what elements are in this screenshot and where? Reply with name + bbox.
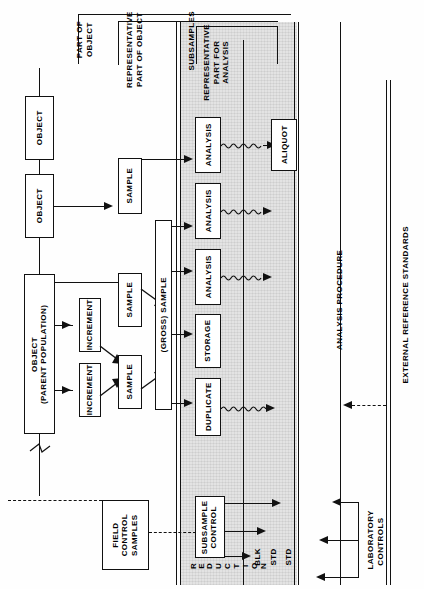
gross-sample-box[interactable]: (GROSS) SAMPLE xyxy=(155,220,172,410)
bracket-rep-part-object-vert xyxy=(118,21,119,65)
analysis-1-label: ANALYSIS xyxy=(203,124,212,167)
dash-field-to-subsample xyxy=(149,532,196,533)
analysis-procedure-label: ANALYSIS PROCEDURE xyxy=(335,235,345,365)
line-control-std-2 xyxy=(225,531,257,532)
arrow-external-reference xyxy=(343,401,352,409)
line-lab-control-1 xyxy=(341,502,359,503)
control-output-std-1: STD xyxy=(284,545,294,569)
external-reference-standards-label: EXTERNAL REFERENCE STANDARDS xyxy=(401,221,411,389)
squiggle-analysis2-out xyxy=(221,207,265,215)
analysis-1-box[interactable]: ANALYSIS xyxy=(195,117,221,173)
band-rail-left-inner xyxy=(180,22,181,585)
line-control-blk xyxy=(225,556,242,557)
storage-box[interactable]: STORAGE xyxy=(195,314,221,368)
spine-object-top-stub xyxy=(39,68,40,96)
object-top-label: OBJECT xyxy=(35,111,44,146)
diagram-canvas: PART OF OBJECT REPRESENTATIVE PART OF OB… xyxy=(0,0,424,589)
control-output-std-2: STD xyxy=(269,545,279,569)
line-parent-to-samplemid xyxy=(55,282,119,283)
arrow-analysis2-out xyxy=(263,207,272,215)
band-rail-right-inner xyxy=(294,22,295,585)
band-rail-left-outer xyxy=(176,22,177,585)
object-top-box[interactable]: OBJECT xyxy=(25,96,54,160)
spine-object-mid-to-parent xyxy=(39,238,40,274)
object-mid-box[interactable]: OBJECT xyxy=(25,174,54,238)
arrow-objectmid-to-sampletop xyxy=(104,202,113,210)
bracket-part-of-object-horz xyxy=(78,14,291,15)
spine-object-top-to-mid xyxy=(39,160,40,174)
arrow-lab-control-1 xyxy=(332,498,341,506)
line-sampletop-to-analysis1 xyxy=(142,159,184,160)
squiggle-analysis3-out xyxy=(221,273,265,281)
arrow-sampletop-to-analysis1 xyxy=(184,155,193,163)
external-ref-rail-a xyxy=(386,80,387,585)
arrow-analysis3-out xyxy=(263,273,272,281)
aliquot-box[interactable]: ALIQUOT xyxy=(271,119,297,171)
sample-low-box[interactable]: SAMPLE xyxy=(118,355,142,409)
duplicate-box[interactable]: DUPLICATE xyxy=(195,378,221,436)
laboratory-controls-label: LABORATORY CONTROLS xyxy=(366,514,385,570)
object-mid-label: OBJECT xyxy=(35,189,44,224)
object-parent-box[interactable]: OBJECT (PARENT POPULATION) xyxy=(24,274,55,434)
increment-2-label: INCREMENT xyxy=(85,364,94,415)
arrow-duplicate-out xyxy=(266,404,275,412)
increment-1-label: INCREMENT xyxy=(85,299,94,350)
arrow-parent-to-increment2 xyxy=(62,386,71,394)
arrow-gross-to-duplicate xyxy=(184,399,193,407)
object-parent-label: OBJECT (PARENT POPULATION) xyxy=(30,304,49,403)
subsample-control-label: SUBSAMPLE CONTROL xyxy=(201,500,220,554)
line-lab-control-2 xyxy=(328,540,359,541)
arrow-control-std-2 xyxy=(257,527,266,535)
external-ref-rail-b xyxy=(390,80,391,585)
spine-break-marker xyxy=(29,441,51,455)
sample-mid-label: SAMPLE xyxy=(125,282,134,318)
analysis-2-box[interactable]: ANALYSIS xyxy=(195,183,221,239)
bracket-label-rep-part-object: REPRESENTATIVE PART OF OBJECT xyxy=(125,5,144,95)
line-gross-to-duplicate xyxy=(172,403,184,404)
dash-to-field-control xyxy=(8,500,102,501)
bracket-rep-part-analysis-vert xyxy=(196,26,197,64)
sample-mid-box[interactable]: SAMPLE xyxy=(118,273,142,327)
gross-sample-label: (GROSS) SAMPLE xyxy=(159,277,168,352)
field-control-samples-box[interactable]: FIELD CONTROL SAMPLES xyxy=(102,500,149,570)
line-control-std-1 xyxy=(225,503,272,504)
analysis-2-label: ANALYSIS xyxy=(203,190,212,233)
line-gross-to-analysis3 xyxy=(172,271,184,272)
line-objectmid-to-sampletop xyxy=(54,206,104,207)
bracket-rep-part-analysis-vert2 xyxy=(277,26,278,64)
field-control-samples-label: FIELD CONTROL SAMPLES xyxy=(111,514,139,556)
arrow-gross-to-storage xyxy=(184,330,193,338)
line-gross-to-analysis2 xyxy=(172,226,184,227)
sample-top-label: SAMPLE xyxy=(125,168,134,204)
arrow-gross-to-analysis2 xyxy=(184,222,193,230)
bracket-label-part-of-object: PART OF OBJECT xyxy=(75,0,94,80)
squiggle-duplicate-out xyxy=(221,404,269,412)
increment-1-box[interactable]: INCREMENT xyxy=(79,298,101,352)
arrow-lab-control-3 xyxy=(316,573,325,581)
line-lab-control-3 xyxy=(325,577,359,578)
arrow-parent-to-increment1 xyxy=(62,321,71,329)
arrow-control-std-1 xyxy=(272,499,281,507)
sample-top-box[interactable]: SAMPLE xyxy=(118,158,142,214)
line-external-reference xyxy=(352,405,353,406)
arrow-gross-to-analysis3 xyxy=(184,267,193,275)
analysis-3-label: ANALYSIS xyxy=(203,256,212,299)
dash-external-reference xyxy=(352,405,386,406)
control-output-blk: BLK xyxy=(253,545,263,569)
band-rail-right-outer xyxy=(298,22,299,585)
duplicate-label: DUPLICATE xyxy=(203,383,212,432)
arrow-control-blk xyxy=(242,552,251,560)
bracket-label-rep-part-analysis: REPRESENTATIVE PART FOR ANALYSIS xyxy=(202,16,231,108)
subsample-control-box[interactable]: SUBSAMPLE CONTROL xyxy=(195,496,225,558)
line-gross-to-storage xyxy=(172,334,184,335)
sample-low-label: SAMPLE xyxy=(125,364,134,400)
increment-2-box[interactable]: INCREMENT xyxy=(79,363,101,417)
analysis-3-box[interactable]: ANALYSIS xyxy=(195,249,221,305)
storage-label: STORAGE xyxy=(203,320,212,362)
squiggle-analysis1-to-aliquot xyxy=(221,141,265,149)
aliquot-label: ALIQUOT xyxy=(279,126,288,165)
arrow-lab-control-2 xyxy=(319,536,328,544)
